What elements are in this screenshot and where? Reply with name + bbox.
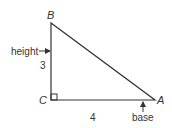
vertex-label-b: B xyxy=(47,9,54,21)
side-length-ca: 4 xyxy=(90,112,96,123)
height-label: height xyxy=(11,46,38,57)
right-triangle-diagram: B C A height 3 4 base xyxy=(0,0,172,128)
base-label: base xyxy=(132,112,154,123)
vertex-label-c: C xyxy=(39,94,47,106)
vertex-label-a: A xyxy=(156,94,164,106)
right-angle-marker xyxy=(51,94,57,100)
triangle-abc xyxy=(51,23,155,100)
side-length-bc: 3 xyxy=(40,60,46,71)
